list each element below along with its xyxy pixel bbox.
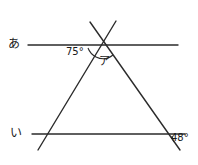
label-angle-75: 75° xyxy=(66,47,84,57)
geometry-canvas xyxy=(0,0,198,165)
transversal-left xyxy=(38,21,116,150)
label-line-a: あ xyxy=(8,38,20,50)
label-line-i: い xyxy=(10,127,22,139)
geometry-figure: あ い 75° ア 48° xyxy=(0,0,198,165)
transversal-right xyxy=(90,22,180,150)
label-angle-48: 48° xyxy=(171,133,189,143)
label-angle-unknown: ア xyxy=(99,56,110,67)
